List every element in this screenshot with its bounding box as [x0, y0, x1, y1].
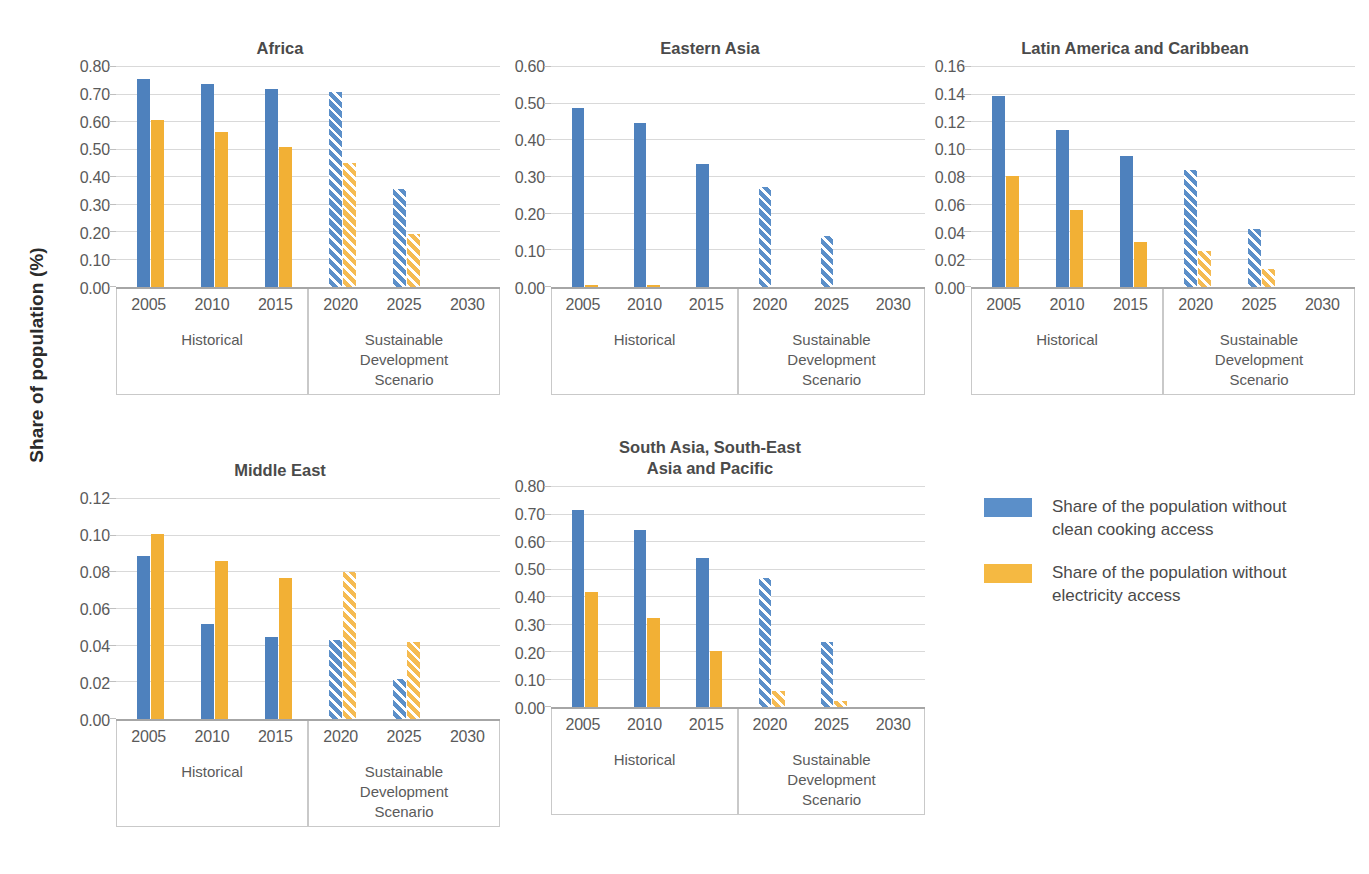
bar-group-container	[551, 487, 925, 707]
y-tick-label: 0.08	[935, 169, 965, 187]
y-tick-mark	[544, 66, 551, 67]
x-years-historical: 200520102015	[117, 289, 307, 314]
y-tick-label: 0.60	[80, 114, 110, 132]
bar-slot-2030	[436, 499, 500, 719]
bar-electricity-2005	[585, 285, 598, 287]
bar-slot-2010	[180, 67, 244, 287]
y-tick-label: 0.60	[515, 534, 545, 552]
x-group-scenario: 202020252030 Sustainable Development Sce…	[738, 289, 925, 395]
bar-electricity-2015	[279, 147, 292, 287]
y-tick-label: 0.14	[935, 86, 965, 104]
y-axis-ticks: 0.000.100.200.300.400.500.60	[495, 67, 551, 289]
bar-clean-cooking-2005	[137, 556, 150, 719]
x-tick-label-2030: 2030	[436, 296, 499, 314]
y-tick-label: 0.10	[515, 243, 545, 261]
y-tick-label: 0.16	[935, 58, 965, 76]
bar-electricity-2015	[710, 651, 723, 707]
bar-slot-2020	[308, 499, 372, 719]
bar-electricity-2010	[647, 618, 660, 707]
y-tick-mark	[544, 286, 551, 287]
bar-clean-cooking-2015	[696, 558, 709, 707]
y-tick-label: 0.70	[80, 86, 110, 104]
bar-electricity-2010	[1070, 210, 1083, 287]
bar-slot-2010	[613, 487, 675, 707]
bar-slot-2015	[244, 499, 308, 719]
x-tick-label-2025: 2025	[372, 728, 435, 746]
y-tick-mark	[109, 718, 116, 719]
y-tick-mark	[544, 103, 551, 104]
y-tick-mark	[964, 149, 971, 150]
bar-clean-cooking-2010	[201, 624, 214, 719]
bar-clean-cooking-2020	[1184, 170, 1197, 287]
bar-electricity-2025	[407, 642, 420, 719]
y-tick-label: 0.10	[515, 672, 545, 690]
group-label-historical: Historical	[117, 746, 307, 782]
bar-clean-cooking-2025	[821, 642, 834, 707]
plot-area: 0.000.100.200.300.400.500.600.700.80	[495, 487, 925, 709]
group-label-scenario: Sustainable Development Scenario	[309, 314, 499, 390]
bar-group-container	[116, 499, 500, 719]
y-tick-mark	[109, 121, 116, 122]
x-tick-label-2020: 2020	[739, 716, 801, 734]
y-tick-mark	[109, 535, 116, 536]
y-tick-label: 0.06	[80, 601, 110, 619]
bar-slot-2020	[738, 487, 800, 707]
bar-electricity-2015	[1134, 242, 1147, 287]
y-tick-mark	[964, 204, 971, 205]
y-tick-mark	[109, 645, 116, 646]
x-tick-label-2030: 2030	[862, 716, 924, 734]
y-axis-ticks: 0.000.020.040.060.080.100.120.140.16	[915, 67, 971, 289]
x-years-scenario: 202020252030	[309, 289, 499, 314]
bar-electricity-2015	[279, 578, 292, 719]
group-label-scenario: Sustainable Development Scenario	[1164, 314, 1354, 390]
chart-figure: Share of population (%) Africa 0.000.100…	[0, 0, 1369, 874]
y-tick-mark	[109, 608, 116, 609]
y-tick-mark	[109, 571, 116, 572]
bar-clean-cooking-2005	[137, 79, 150, 287]
bar-clean-cooking-2010	[634, 530, 647, 707]
plot-canvas	[116, 67, 500, 289]
plot-canvas	[551, 487, 925, 709]
bar-slot-2020	[1163, 67, 1227, 287]
y-tick-label: 0.00	[80, 712, 110, 730]
bar-slot-2025	[372, 67, 436, 287]
y-tick-mark	[544, 679, 551, 680]
bar-electricity-2010	[647, 285, 660, 287]
y-tick-label: 0.30	[515, 617, 545, 635]
y-tick-mark	[964, 94, 971, 95]
panel-title: Latin America and Caribbean	[915, 38, 1355, 59]
y-tick-label: 0.00	[515, 280, 545, 298]
y-tick-label: 0.20	[515, 645, 545, 663]
x-tick-label-2010: 2010	[614, 296, 676, 314]
x-tick-label-2020: 2020	[309, 296, 372, 314]
x-tick-label-2020: 2020	[309, 728, 372, 746]
bar-clean-cooking-2020	[329, 640, 342, 719]
y-tick-mark	[544, 486, 551, 487]
y-tick-mark	[544, 541, 551, 542]
y-tick-label: 0.40	[515, 589, 545, 607]
x-tick-label-2005: 2005	[117, 728, 180, 746]
bar-clean-cooking-2010	[201, 84, 214, 288]
y-tick-mark	[544, 139, 551, 140]
bar-electricity-2005	[1006, 176, 1019, 287]
y-tick-label: 0.06	[935, 197, 965, 215]
x-tick-label-2030: 2030	[1291, 296, 1354, 314]
bar-electricity-2020	[772, 691, 785, 707]
y-tick-label: 0.50	[80, 141, 110, 159]
bar-clean-cooking-2015	[265, 637, 278, 720]
bar-slot-2025	[1227, 67, 1291, 287]
bar-slot-2005	[551, 487, 613, 707]
y-tick-label: 0.00	[935, 280, 965, 298]
bar-group-container	[116, 67, 500, 287]
y-tick-mark	[544, 596, 551, 597]
x-tick-label-2025: 2025	[372, 296, 435, 314]
bar-clean-cooking-2010	[634, 123, 647, 287]
bar-clean-cooking-2005	[572, 108, 585, 287]
bar-electricity-2010	[215, 132, 228, 287]
x-years-scenario: 202020252030	[739, 289, 924, 314]
bar-slot-2005	[116, 499, 180, 719]
group-label-scenario: Sustainable Development Scenario	[739, 314, 924, 390]
y-tick-label: 0.70	[515, 506, 545, 524]
bar-clean-cooking-2020	[759, 187, 772, 287]
panel-title: South Asia, South-East Asia and Pacific	[495, 437, 925, 479]
